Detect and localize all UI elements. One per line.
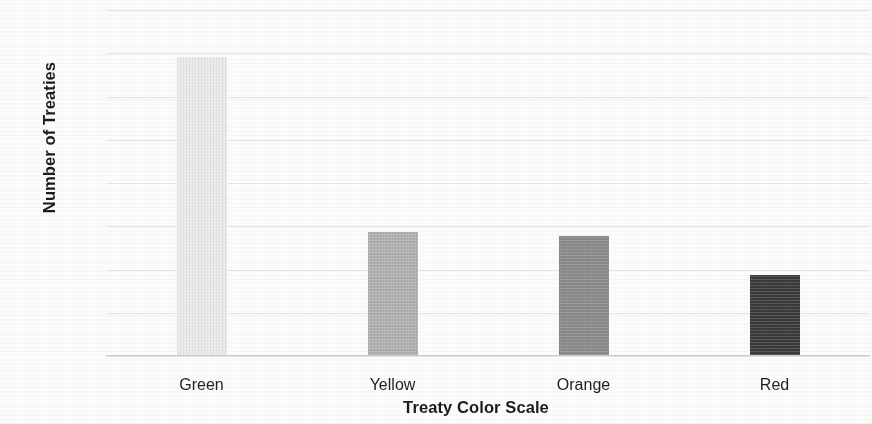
bar-green <box>177 57 227 355</box>
bar-texture <box>750 275 800 355</box>
bar-chart-figure: Number of Treaties Treaty Color Scale 02… <box>0 0 872 424</box>
x-axis-tick-label-yellow: Yellow <box>370 376 416 394</box>
x-axis-tick-label-green: Green <box>179 376 223 394</box>
bar-yellow <box>368 232 418 355</box>
x-axis-line <box>106 355 870 356</box>
bar-texture <box>559 236 609 355</box>
bar-texture <box>368 232 418 355</box>
gridline <box>106 53 870 54</box>
bar-orange <box>559 236 609 355</box>
x-axis-tick-label-red: Red <box>760 376 789 394</box>
x-axis-title: Treaty Color Scale <box>120 398 832 417</box>
bar-red <box>750 275 800 355</box>
bar-texture <box>177 57 227 355</box>
y-axis-title: Number of Treaties <box>40 13 59 263</box>
gridline <box>106 356 870 357</box>
plot-area: 020406080100120140160 GreenYellowOrangeR… <box>106 10 870 356</box>
gridline <box>106 10 870 11</box>
x-axis-tick-label-orange: Orange <box>557 376 610 394</box>
